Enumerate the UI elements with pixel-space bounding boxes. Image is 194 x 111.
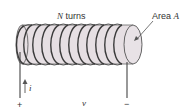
current-arrow-icon [23, 79, 28, 93]
current-label: i [29, 83, 32, 93]
solenoid-diagram: i + v − N turns Area A [0, 0, 194, 111]
turns-label: N turns [56, 11, 86, 21]
voltage-label: v [82, 98, 86, 108]
area-label: Area A [152, 11, 180, 21]
minus-terminal-label: − [124, 99, 129, 109]
plus-terminal-label: + [17, 100, 22, 110]
end-cap-area [124, 25, 142, 64]
